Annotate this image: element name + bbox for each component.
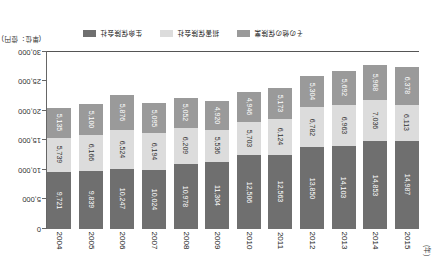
legend-label: その他の保険業 <box>254 29 303 39</box>
bar-value-label: 6,166 <box>87 144 94 162</box>
bar-value-label: 10,024 <box>151 189 158 210</box>
bar-segment: 7,036 <box>363 100 387 142</box>
bar-value-label: 5,739 <box>56 146 63 164</box>
bar-value-label: 5,703 <box>245 130 252 148</box>
bar-value-label: 10,978 <box>182 186 189 207</box>
bar-value-label: 5,173 <box>277 95 284 113</box>
bar-segment: 5,739 <box>47 138 71 172</box>
bar-group: 13,8506,7825,3042012 <box>300 52 324 229</box>
bar-segment: 10,978 <box>174 164 198 229</box>
bar-value-label: 13,850 <box>309 177 316 198</box>
legend-item[interactable]: その他の保険業 <box>237 29 303 39</box>
bar-value-label: 6,963 <box>340 117 347 135</box>
bar-group: 14,1036,9635,6922013 <box>332 52 356 229</box>
bar-group: 9,8396,1665,1002005 <box>79 52 103 229</box>
bar-value-label: 6,524 <box>119 141 126 159</box>
bar-stack: 13,8506,7825,304 <box>300 76 324 229</box>
bar-group: 9,7215,7395,1352004 <box>47 52 71 229</box>
x-axis-year-label: 2006 <box>118 232 127 250</box>
bar-value-label: 9,721 <box>56 192 63 210</box>
bar-stack: 9,8396,1665,100 <box>79 105 103 230</box>
bar-value-label: 6,782 <box>309 119 316 137</box>
legend-swatch <box>237 31 250 38</box>
bar-group: 14,9876,1136,3782015(年) <box>395 52 419 229</box>
x-axis-year-label: 2004 <box>55 232 64 250</box>
legend-item[interactable]: 損害保険会社 <box>160 29 219 39</box>
bar-segment: 14,987 <box>395 141 419 229</box>
bar-value-label: 6,113 <box>404 114 411 131</box>
bar-segment: 5,968 <box>363 65 387 100</box>
bar-value-label: 4,920 <box>214 106 221 124</box>
bar-value-label: 6,209 <box>182 137 189 155</box>
bar-value-label: 12,563 <box>277 181 284 202</box>
bar-value-label: 5,968 <box>372 74 379 92</box>
bar-segment: 6,194 <box>142 133 166 170</box>
y-axis-tick <box>42 81 47 82</box>
bar-stack: 14,1036,9635,692 <box>332 71 356 229</box>
bar-segment: 12,563 <box>269 155 293 229</box>
bar-segment: 4,920 <box>205 101 229 130</box>
bar-segment: 6,524 <box>110 130 134 168</box>
x-axis-year-label: 2007 <box>150 232 159 250</box>
y-axis-tick <box>42 140 47 141</box>
bar-segment: 9,839 <box>79 171 103 229</box>
y-axis-tick-label: 10,000 <box>18 166 41 175</box>
unit-note-label: (単位：億円) <box>2 35 41 45</box>
y-axis-tick-label: 30,000 <box>18 48 41 57</box>
bar-segment: 11,304 <box>205 162 229 229</box>
legend-item[interactable]: 生命保険会社 <box>83 29 142 39</box>
y-axis-tick-label: 15,000 <box>18 136 41 145</box>
bar-group: 10,2476,5245,8762006 <box>110 52 134 229</box>
bar-stack: 9,7215,7395,135 <box>47 108 71 229</box>
bar-value-label: 7,036 <box>372 112 379 130</box>
bar-segment: 10,024 <box>142 170 166 229</box>
x-axis-year-label: 2005 <box>86 232 95 250</box>
chart-legend: 生命保険会社損害保険会社その他の保険業 <box>83 29 413 39</box>
bar-group: 12,5065,7034,9462010 <box>237 52 261 229</box>
bar-group: 10,9786,2095,0522008 <box>174 52 198 229</box>
x-axis-year-label: 2012 <box>308 232 317 250</box>
bar-segment: 14,853 <box>363 141 387 229</box>
bar-value-label: 5,095 <box>151 110 158 128</box>
bar-value-label: 6,124 <box>277 128 284 146</box>
bar-stack: 10,9786,2095,052 <box>174 98 198 229</box>
y-axis-tick-label: 20,000 <box>18 107 41 116</box>
bar-value-label: 5,135 <box>56 114 63 132</box>
bar-segment: 5,173 <box>269 88 293 119</box>
bar-value-label: 5,100 <box>87 111 94 129</box>
bar-segment: 6,124 <box>269 119 293 155</box>
bar-value-label: 14,103 <box>340 177 347 198</box>
x-axis-year-label: 2008 <box>181 232 190 250</box>
bar-stack: 10,0246,1945,095 <box>142 103 166 229</box>
bar-segment: 5,304 <box>300 76 324 107</box>
bar-value-label: 5,536 <box>214 137 221 155</box>
bar-segment: 13,850 <box>300 147 324 229</box>
bar-segment: 5,100 <box>79 105 103 135</box>
bar-value-label: 5,304 <box>309 83 316 101</box>
bar-stack: 10,2476,5245,876 <box>110 95 134 229</box>
legend-label: 損害保険会社 <box>177 29 219 39</box>
bar-value-label: 9,839 <box>87 191 94 209</box>
bar-series-container: 9,7215,7395,13520049,8396,1665,100200510… <box>47 52 419 229</box>
legend-swatch <box>160 31 173 38</box>
bar-stack: 12,5636,1245,173 <box>269 88 293 229</box>
y-axis-tick <box>42 169 47 170</box>
bar-segment: 5,876 <box>110 95 134 130</box>
bar-stack: 11,3045,5364,920 <box>205 101 229 229</box>
bar-value-label: 6,378 <box>404 77 411 95</box>
bar-value-label: 12,506 <box>245 181 252 202</box>
y-axis-tick-label: 0 <box>37 225 41 234</box>
x-axis-year-label: 2010 <box>244 232 253 250</box>
bar-segment: 10,247 <box>110 169 134 229</box>
y-axis-tick <box>42 228 47 229</box>
bar-group: 12,5636,1245,1732011 <box>269 52 293 229</box>
bar-segment: 6,113 <box>395 105 419 141</box>
bar-segment: 6,782 <box>300 107 324 147</box>
bar-segment: 5,135 <box>47 108 71 138</box>
y-axis-tick <box>42 51 47 52</box>
bar-segment: 9,721 <box>47 172 71 229</box>
bar-segment: 5,536 <box>205 130 229 163</box>
bar-value-label: 10,247 <box>119 188 126 209</box>
legend-swatch <box>83 31 96 38</box>
